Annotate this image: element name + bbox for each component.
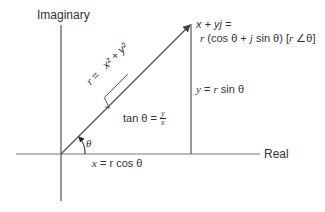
tangent-fraction: yx	[160, 110, 166, 127]
angle-theta-label: θ	[86, 138, 91, 149]
magnitude-sqrt-icon	[100, 74, 135, 109]
imaginary-axis-label: Imaginary	[37, 9, 90, 21]
y-side-eq: =	[201, 83, 214, 95]
x-side-label: x = r cos θ	[92, 158, 142, 169]
angle-arc-icon	[79, 137, 85, 154]
tangent-label: tan θ = yx	[123, 110, 166, 127]
tangent-prefix: tan θ =	[123, 112, 160, 124]
point-polar-prefix: (cos θ +	[204, 32, 250, 44]
real-axis-label: Real	[264, 148, 289, 160]
point-polar-mid: sin θ) [	[253, 32, 289, 44]
tangent-denominator: x	[160, 119, 166, 127]
point-polar-suffix: ∠θ]	[293, 32, 315, 44]
point-label-line1: x + yj =	[196, 19, 231, 30]
x-side-rest: = r cos θ	[97, 157, 143, 169]
y-side-rest: sin θ	[218, 83, 244, 95]
point-label-line2: r (cos θ + j sin θ) [r ∠θ]	[200, 33, 315, 44]
y-side-label: y = r sin θ	[196, 84, 244, 95]
